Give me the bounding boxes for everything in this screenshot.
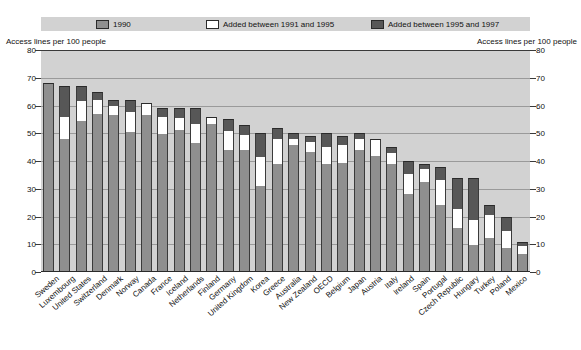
y-tick-label-right-70: 70 xyxy=(536,74,560,83)
segment-1991-1995 xyxy=(239,135,250,149)
bar-spain[interactable] xyxy=(419,164,430,272)
segment-1991-1995 xyxy=(157,117,168,134)
y-tick-label-right-20: 20 xyxy=(536,213,560,222)
segment-1990 xyxy=(43,83,54,272)
segment-1990 xyxy=(370,156,381,272)
y-tick-mark-right-80 xyxy=(530,50,536,51)
segment-1990 xyxy=(190,143,201,272)
bar-ireland[interactable] xyxy=(403,161,414,272)
segment-1991-1995 xyxy=(272,139,283,165)
bar-finland[interactable] xyxy=(206,117,217,272)
bar-canada[interactable] xyxy=(141,103,152,272)
segment-1995-1997 xyxy=(321,133,332,146)
legend-swatch-1990-icon xyxy=(96,20,109,29)
segment-1991-1995 xyxy=(435,180,446,205)
bar-netherlands[interactable] xyxy=(190,108,201,272)
segment-1995-1997 xyxy=(239,125,250,136)
bar-switzerland[interactable] xyxy=(92,92,103,272)
bar-portugal[interactable] xyxy=(435,167,446,272)
segment-1991-1995 xyxy=(370,140,381,156)
bar-korea[interactable] xyxy=(255,133,266,272)
segment-1991-1995 xyxy=(321,147,332,165)
y-tick-mark-left-30 xyxy=(35,189,41,190)
y-tick-label-right-30: 30 xyxy=(536,185,560,194)
segment-1990 xyxy=(354,150,365,272)
segment-1991-1995 xyxy=(403,174,414,194)
segment-1995-1997 xyxy=(190,108,201,124)
y-tick-label-left-30: 30 xyxy=(12,185,36,194)
bar-italy[interactable] xyxy=(386,147,397,272)
segment-1995-1997 xyxy=(255,133,266,157)
segment-1991-1995 xyxy=(59,117,70,139)
y-tick-mark-left-10 xyxy=(35,244,41,245)
segment-1991-1995 xyxy=(76,101,87,121)
bar-series-container xyxy=(41,50,530,272)
plot-area xyxy=(41,50,530,272)
x-axis-labels: SwedenLuxembourgUnited StatesSwitzerland… xyxy=(41,272,530,350)
segment-1991-1995 xyxy=(517,246,528,254)
bar-oecd[interactable] xyxy=(321,133,332,272)
y-tick-label-left-70: 70 xyxy=(12,74,36,83)
legend-item-1991-1995[interactable]: Added between 1991 and 1995 xyxy=(206,17,334,31)
segment-1991-1995 xyxy=(337,145,348,163)
y-tick-label-right-60: 60 xyxy=(536,102,560,111)
segment-1991-1995 xyxy=(305,142,316,151)
segment-1995-1997 xyxy=(337,136,348,145)
segment-1995-1997 xyxy=(125,100,136,112)
legend-swatch-1995-1997-icon xyxy=(371,20,384,29)
segment-1995-1997 xyxy=(484,205,495,214)
bar-new-zealand[interactable] xyxy=(305,136,316,272)
segment-1990 xyxy=(157,134,168,272)
y-tick-label-right-40: 40 xyxy=(536,157,560,166)
segment-1995-1997 xyxy=(76,86,87,100)
y-tick-mark-right-40 xyxy=(530,161,536,162)
segment-1995-1997 xyxy=(272,128,283,139)
bar-iceland[interactable] xyxy=(174,108,185,272)
segment-1991-1995 xyxy=(484,215,495,238)
bar-sweden[interactable] xyxy=(43,83,54,272)
telecom-access-lines-chart: 1990 Added between 1991 and 1995 Added b… xyxy=(0,0,581,350)
legend-label-1995-1997: Added between 1995 and 1997 xyxy=(388,20,499,29)
segment-1990 xyxy=(403,194,414,272)
segment-1995-1997 xyxy=(501,217,512,232)
chart-legend: 1990 Added between 1991 and 1995 Added b… xyxy=(41,17,530,31)
segment-1995-1997 xyxy=(59,86,70,117)
segment-1991-1995 xyxy=(92,100,103,114)
segment-1995-1997 xyxy=(92,92,103,100)
legend-label-1991-1995: Added between 1991 and 1995 xyxy=(223,20,334,29)
legend-item-1990[interactable]: 1990 xyxy=(96,17,131,31)
legend-swatch-1991-1995-icon xyxy=(206,20,219,29)
bar-japan[interactable] xyxy=(354,133,365,272)
segment-1990 xyxy=(141,115,152,272)
y-tick-mark-left-50 xyxy=(35,133,41,134)
y-tick-mark-right-60 xyxy=(530,106,536,107)
segment-1991-1995 xyxy=(419,169,430,182)
y-tick-label-left-40: 40 xyxy=(12,157,36,166)
bar-united-kingdom[interactable] xyxy=(239,125,250,272)
y-tick-label-left-50: 50 xyxy=(12,129,36,138)
y-axis-title-right: Access lines per 100 people xyxy=(477,37,577,46)
bar-luxembourg[interactable] xyxy=(59,86,70,272)
bar-austria[interactable] xyxy=(370,139,381,272)
bar-france[interactable] xyxy=(157,108,168,272)
legend-item-1995-1997[interactable]: Added between 1995 and 1997 xyxy=(371,17,499,31)
y-tick-mark-right-10 xyxy=(530,244,536,245)
segment-1991-1995 xyxy=(468,220,479,246)
segment-1991-1995 xyxy=(223,131,234,150)
segment-1991-1995 xyxy=(386,153,397,165)
segment-1990 xyxy=(288,145,299,272)
bar-australia[interactable] xyxy=(288,133,299,272)
segment-1991-1995 xyxy=(354,139,365,149)
y-tick-mark-right-20 xyxy=(530,217,536,218)
bar-united-states[interactable] xyxy=(76,86,87,272)
segment-1991-1995 xyxy=(125,112,136,133)
y-tick-mark-right-30 xyxy=(530,189,536,190)
y-tick-label-right-50: 50 xyxy=(536,129,560,138)
segment-1991-1995 xyxy=(190,124,201,143)
segment-1991-1995 xyxy=(255,157,266,186)
segment-1990 xyxy=(59,139,70,272)
y-tick-mark-left-80 xyxy=(35,50,41,51)
segment-1991-1995 xyxy=(141,104,152,115)
y-tick-label-right-10: 10 xyxy=(536,240,560,249)
segment-1995-1997 xyxy=(174,108,185,117)
